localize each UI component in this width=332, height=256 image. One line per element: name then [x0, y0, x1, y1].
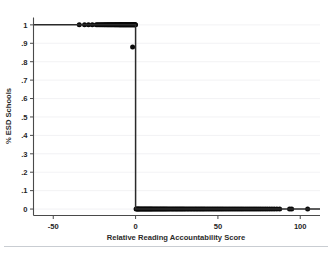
- y-tick-label: 0: [23, 205, 27, 214]
- y-tick-label: .2: [21, 168, 27, 177]
- x-tick-label: -50: [48, 222, 59, 231]
- data-point: [130, 44, 135, 49]
- y-tick-label: .6: [21, 94, 27, 103]
- x-tick-label: 50: [214, 222, 222, 231]
- figure-container: 0.1.2.3.4.5.6.7.8.91 -50050100 Relative …: [0, 0, 332, 256]
- y-tick-label: .9: [21, 39, 27, 48]
- x-axis-title: Relative Reading Accountability Score: [107, 233, 246, 242]
- y-tick-label: .1: [21, 186, 28, 195]
- y-tick-label: .3: [21, 150, 27, 159]
- scatter-plot: 0.1.2.3.4.5.6.7.8.91 -50050100 Relative …: [0, 0, 332, 256]
- x-tick-label: 100: [294, 222, 307, 231]
- y-tick-label: .7: [21, 76, 27, 85]
- figure-background: [0, 0, 332, 256]
- y-tick-label: .5: [21, 113, 28, 122]
- x-tick-label: 0: [133, 222, 137, 231]
- y-tick-label: .8: [21, 58, 27, 67]
- y-tick-label: .4: [21, 131, 28, 140]
- y-axis-title: % ESD Schools: [4, 88, 13, 144]
